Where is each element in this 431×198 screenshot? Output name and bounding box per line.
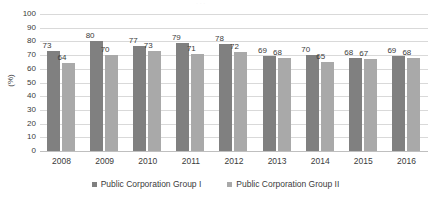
bar-value-label: 65 bbox=[308, 52, 334, 61]
y-axis-tick-label: 100 bbox=[14, 10, 36, 18]
legend-item[interactable]: Public Corporation Group I bbox=[92, 179, 202, 189]
legend-label: Public Corporation Group II bbox=[236, 179, 339, 189]
plot-area: 736480707773797178726968706568676968 bbox=[40, 14, 428, 152]
bar[interactable] bbox=[219, 44, 232, 151]
bar-value-label: 64 bbox=[49, 53, 75, 62]
x-axis-tick-label: 2015 bbox=[342, 156, 384, 167]
x-axis-tick-labels: 200820092010201120122013201420152016 bbox=[40, 156, 428, 170]
bar-group: 6968 bbox=[256, 14, 299, 151]
x-axis-tick-label: 2013 bbox=[256, 156, 298, 167]
bar[interactable] bbox=[364, 59, 377, 151]
legend-item[interactable]: Public Corporation Group II bbox=[227, 179, 339, 189]
bar-value-label: 67 bbox=[351, 49, 377, 58]
bar-value-label: 70 bbox=[92, 45, 118, 54]
bar[interactable] bbox=[321, 62, 334, 151]
y-axis-tick-label: 40 bbox=[14, 92, 36, 100]
x-axis-tick-label: 2010 bbox=[127, 156, 169, 167]
bar[interactable] bbox=[148, 51, 161, 151]
x-axis-tick-label: 2008 bbox=[41, 156, 83, 167]
y-axis-tick-label: 80 bbox=[14, 37, 36, 45]
y-axis-tick-label: 90 bbox=[14, 24, 36, 32]
legend-label: Public Corporation Group I bbox=[101, 179, 202, 189]
bar[interactable] bbox=[234, 52, 247, 151]
bar[interactable] bbox=[407, 58, 420, 151]
y-axis-tick-label: 70 bbox=[14, 51, 36, 59]
y-axis-tick-label: 50 bbox=[14, 79, 36, 87]
bar[interactable] bbox=[263, 56, 276, 151]
bar-value-label: 73 bbox=[135, 41, 161, 50]
bar[interactable] bbox=[278, 58, 291, 151]
bar-group: 7872 bbox=[212, 14, 255, 151]
bar[interactable] bbox=[191, 54, 204, 151]
y-axis-tick-label: 20 bbox=[14, 120, 36, 128]
y-axis-tick-labels: 1009080706050403020100 bbox=[14, 14, 36, 152]
x-axis-tick-label: 2014 bbox=[299, 156, 341, 167]
legend-swatch-icon bbox=[92, 182, 97, 187]
x-axis-tick-label: 2012 bbox=[213, 156, 255, 167]
x-axis-line bbox=[40, 151, 428, 152]
chart-legend: Public Corporation Group IPublic Corpora… bbox=[0, 179, 431, 189]
bar[interactable] bbox=[349, 58, 362, 151]
bar[interactable] bbox=[105, 55, 118, 151]
bar[interactable] bbox=[47, 51, 60, 151]
bar[interactable] bbox=[62, 63, 75, 151]
bar-group: 6968 bbox=[385, 14, 428, 151]
y-axis-tick-label: 60 bbox=[14, 65, 36, 73]
y-axis-tick-label: 30 bbox=[14, 106, 36, 114]
x-axis-tick-label: 2011 bbox=[170, 156, 212, 167]
bar-group: 6867 bbox=[342, 14, 385, 151]
bar-value-label: 79 bbox=[163, 33, 189, 42]
bar[interactable] bbox=[392, 56, 405, 151]
bar-value-label: 68 bbox=[265, 48, 291, 57]
bar-group: 7065 bbox=[299, 14, 342, 151]
bar-value-label: 80 bbox=[77, 31, 103, 40]
legend-swatch-icon bbox=[227, 182, 232, 187]
bar[interactable] bbox=[133, 46, 146, 151]
bar-chart: · · · (%) 1009080706050403020100 7364807… bbox=[0, 0, 431, 198]
bar[interactable] bbox=[306, 55, 319, 151]
x-axis-tick-label: 2016 bbox=[385, 156, 427, 167]
y-axis-tick-label: 0 bbox=[14, 147, 36, 155]
bar-value-label: 73 bbox=[34, 41, 60, 50]
bar-value-label: 68 bbox=[394, 48, 420, 57]
top-clipped-text: · · · bbox=[196, 0, 236, 5]
x-axis-tick-label: 2009 bbox=[84, 156, 126, 167]
y-axis-tick-label: 10 bbox=[14, 133, 36, 141]
bar-value-label: 71 bbox=[178, 44, 204, 53]
bar[interactable] bbox=[176, 43, 189, 151]
bar-value-label: 72 bbox=[221, 42, 247, 51]
bar[interactable] bbox=[90, 41, 103, 151]
